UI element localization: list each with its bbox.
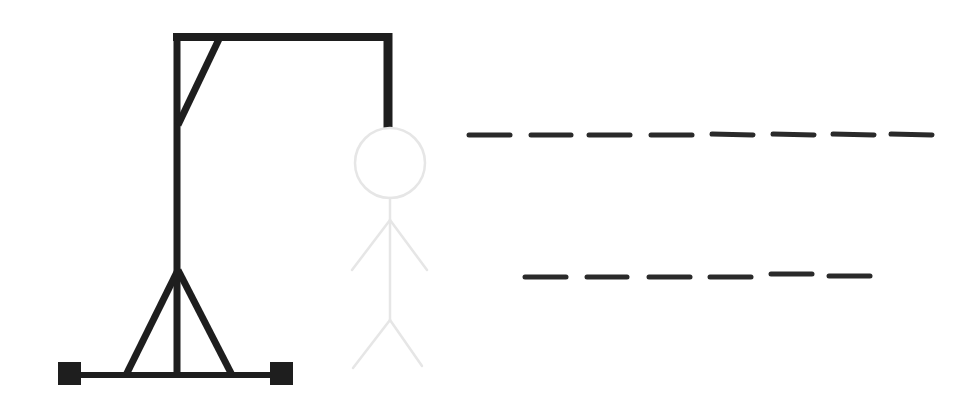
letter-slot — [712, 134, 753, 135]
hangman-figure — [352, 128, 427, 368]
word-row-1 — [469, 134, 932, 135]
gallows — [58, 33, 392, 385]
figure-left-arm — [352, 220, 390, 270]
figure-right-arm — [390, 220, 427, 270]
gallows-tripod-right — [178, 270, 232, 375]
letter-slot — [891, 134, 932, 135]
word-row-2 — [525, 274, 870, 277]
letter-slot — [833, 134, 874, 135]
hangman-canvas — [0, 0, 978, 402]
gallows-tripod-left — [126, 270, 178, 375]
gallows-left-foot — [58, 362, 81, 385]
figure-left-leg — [353, 320, 390, 368]
figure-head — [355, 128, 425, 198]
letter-slot — [773, 134, 814, 135]
hangman-game — [0, 0, 978, 402]
figure-right-leg — [390, 320, 422, 366]
gallows-right-foot — [270, 362, 293, 385]
gallows-brace — [178, 37, 220, 125]
